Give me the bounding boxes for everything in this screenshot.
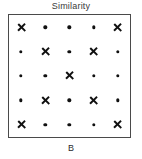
cross-marker-icon (89, 96, 98, 105)
dot-marker-icon (116, 50, 119, 53)
dot-marker-icon (44, 25, 47, 28)
cross-marker-icon (113, 23, 122, 32)
grid-cell-r1c4 (82, 15, 106, 39)
grid-cell-r5c4 (82, 113, 106, 137)
dot-marker-icon (92, 25, 95, 28)
grid-cell-r5c2 (33, 113, 57, 137)
dot-marker-icon (19, 50, 22, 53)
grid-cell-r2c1 (9, 39, 33, 63)
dot-marker-icon (44, 74, 47, 77)
cross-marker-icon (41, 96, 50, 105)
grid-cell-r4c3 (57, 88, 81, 112)
marker-grid (9, 15, 130, 137)
grid-cell-r1c1 (9, 15, 33, 39)
grid-cell-r5c5 (106, 113, 130, 137)
cross-marker-icon (89, 47, 98, 56)
grid-cell-r2c4 (82, 39, 106, 63)
cross-marker-icon (17, 120, 26, 129)
dot-marker-icon (92, 74, 95, 77)
grid-cell-r4c1 (9, 88, 33, 112)
grid-cell-r4c5 (106, 88, 130, 112)
grid-cell-r5c3 (57, 113, 81, 137)
grid-cell-r5c1 (9, 113, 33, 137)
dot-marker-icon (116, 74, 119, 77)
grid-cell-r3c5 (106, 64, 130, 88)
dot-marker-icon (44, 123, 47, 126)
grid-cell-r2c2 (33, 39, 57, 63)
grid-cell-r2c5 (106, 39, 130, 63)
grid-cell-r1c3 (57, 15, 81, 39)
dot-marker-icon (68, 50, 71, 53)
grid-cell-r1c5 (106, 15, 130, 39)
grid-cell-r3c2 (33, 64, 57, 88)
grid-cell-r3c3 (57, 64, 81, 88)
grid-cell-r4c2 (33, 88, 57, 112)
grid-cell-r3c4 (82, 64, 106, 88)
grid-cell-r4c4 (82, 88, 106, 112)
cross-marker-icon (65, 71, 74, 80)
dot-marker-icon (19, 74, 22, 77)
dot-marker-icon (68, 123, 71, 126)
panel-label: B (0, 143, 142, 154)
plot-area (8, 14, 131, 138)
dot-marker-icon (68, 99, 71, 102)
dot-marker-icon (68, 25, 71, 28)
cross-marker-icon (113, 120, 122, 129)
cross-marker-icon (17, 23, 26, 32)
grid-cell-r1c2 (33, 15, 57, 39)
dot-marker-icon (92, 123, 95, 126)
grid-cell-r3c1 (9, 64, 33, 88)
dot-marker-icon (116, 99, 119, 102)
similarity-figure: Similarity (0, 0, 142, 159)
dot-marker-icon (19, 99, 22, 102)
grid-cell-r2c3 (57, 39, 81, 63)
page-title: Similarity (0, 1, 142, 12)
cross-marker-icon (41, 47, 50, 56)
